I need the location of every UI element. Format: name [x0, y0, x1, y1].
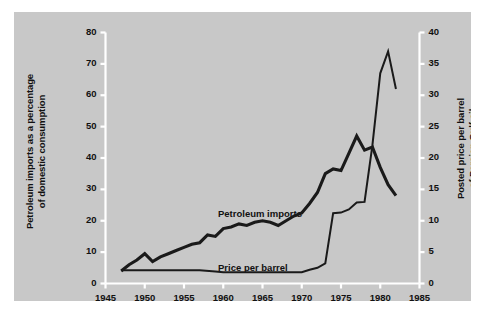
axis-tick-label: 15: [429, 182, 455, 193]
axis-tick-label: 30: [64, 182, 97, 193]
series-label-price-per-barrel: Price per barrel: [218, 262, 288, 273]
axis-tick-label: 1950: [123, 292, 167, 303]
axis-tick-label: 10: [64, 245, 97, 256]
left-axis-title: Petroleum imports as a percentage of dom…: [24, 52, 47, 252]
axis-tick-label: 20: [429, 151, 455, 162]
series-label-petroleum-imports: Petroleum imports: [218, 208, 302, 219]
axis-tick-label: 1970: [280, 292, 324, 303]
axis-tick-label: 30: [429, 88, 455, 99]
axis-tick-label: 60: [64, 88, 97, 99]
axis-tick-label: 1975: [319, 292, 363, 303]
axis-tick-label: 70: [64, 57, 97, 68]
axis-tick-label: 1980: [358, 292, 402, 303]
axis-tick-label: 10: [429, 214, 455, 225]
axis-tick-label: 80: [64, 26, 97, 37]
axis-tick-label: 50: [64, 120, 97, 131]
chart-figure: Petroleum imports as a percentage of dom…: [0, 0, 485, 313]
axis-tick-label: 0: [429, 277, 455, 288]
axis-tick-label: 1960: [201, 292, 245, 303]
axis-tick-label: 1965: [241, 292, 285, 303]
right-axis-title: Posted price per barrel of Persian Gulf …: [455, 54, 472, 244]
axis-tick-label: 1955: [162, 292, 206, 303]
axis-tick-label: 35: [429, 57, 455, 68]
axis-tick-label: 0: [64, 277, 97, 288]
axis-tick-label: 40: [64, 151, 97, 162]
axis-tick-label: 1985: [398, 292, 442, 303]
axis-tick-label: 1945: [84, 292, 128, 303]
axis-tick-label: 20: [64, 214, 97, 225]
axis-tick-label: 5: [429, 245, 455, 256]
axis-tick-label: 25: [429, 120, 455, 131]
axis-tick-label: 40: [429, 26, 455, 37]
